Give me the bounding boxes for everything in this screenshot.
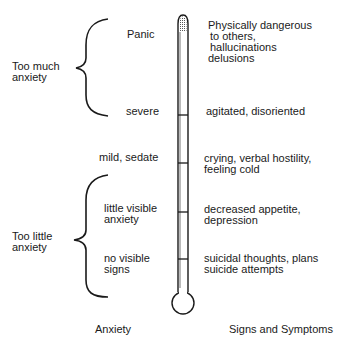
brace-too-much bbox=[76, 19, 108, 116]
level-severe: severe bbox=[126, 106, 159, 117]
group-label-too-much: Too much anxiety bbox=[12, 61, 60, 83]
axis-label-signs: Signs and Symptoms bbox=[229, 324, 333, 335]
group-label-too-little: Too little anxiety bbox=[12, 231, 52, 253]
signs-severe: agitated, disoriented bbox=[206, 106, 305, 117]
signs-mild: crying, verbal hostility, feeling cold bbox=[204, 153, 311, 175]
brace-too-little bbox=[74, 175, 108, 297]
mercury-top bbox=[180, 17, 187, 32]
level-no-visible: no visible signs bbox=[104, 253, 150, 275]
level-little-visible: little visible anxiety bbox=[104, 203, 157, 225]
signs-no-visible: suicidal thoughts, plans suicide attempt… bbox=[204, 253, 318, 275]
signs-panic: Physically dangerous to others, hallucin… bbox=[208, 20, 312, 64]
level-panic: Panic bbox=[127, 29, 155, 40]
axis-label-anxiety: Anxiety bbox=[95, 324, 131, 335]
signs-little-visible: decreased appetite, depression bbox=[204, 204, 301, 226]
thermometer-bulb bbox=[172, 292, 194, 314]
level-mild: mild, sedate bbox=[99, 152, 158, 163]
thermometer bbox=[172, 15, 194, 314]
